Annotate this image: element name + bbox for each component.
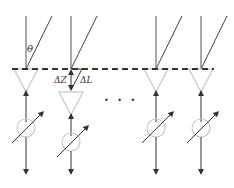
array-element-1 xyxy=(12,16,52,172)
array-element-4 xyxy=(187,16,227,172)
antenna-triangle xyxy=(59,92,83,115)
antenna-triangle xyxy=(144,69,168,92)
delta-z-label: ΔZ xyxy=(53,75,67,85)
antenna-triangle xyxy=(14,69,38,92)
incident-ray xyxy=(201,16,227,69)
ellipsis-dots: • • • xyxy=(104,96,138,105)
delta-l-label: ΔL xyxy=(79,75,92,85)
theta-label: θ xyxy=(27,43,33,54)
array-element-3 xyxy=(142,16,182,172)
incident-ray xyxy=(71,16,97,69)
antenna-triangle xyxy=(189,69,213,92)
phased-array-diagram: θ ΔZ ΔL • • • xyxy=(0,0,234,188)
array-element-2 xyxy=(57,16,97,172)
incident-ray xyxy=(156,16,182,69)
